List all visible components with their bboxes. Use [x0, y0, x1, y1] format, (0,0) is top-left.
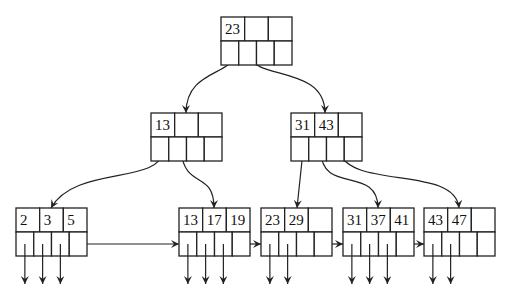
pointer-cell — [274, 41, 292, 65]
pointer-cell — [69, 232, 87, 256]
key-cell — [245, 17, 269, 41]
key-cell — [471, 208, 495, 232]
pointer-cell — [232, 232, 250, 256]
tree-node-leaf-5: 4347 — [424, 208, 495, 256]
pointer-cell — [151, 137, 169, 161]
key-cell — [308, 208, 332, 232]
bplus-tree-diagram: 2313314323513171923293137414347 — [0, 0, 511, 297]
pointer-cell — [309, 137, 327, 161]
pointer-cell — [169, 137, 187, 161]
tree-nodes: 2313314323513171923293137414347 — [16, 17, 495, 256]
pointer-cell — [221, 41, 239, 65]
child-pointer-arrow-icon — [51, 151, 163, 208]
pointer-cell — [327, 137, 345, 161]
tree-node-leaf-4: 313741 — [343, 208, 414, 256]
pointer-cell — [204, 137, 222, 161]
pointer-cell — [396, 232, 414, 256]
pointer-cell — [239, 41, 257, 65]
key-label: 23 — [225, 21, 240, 37]
pointer-cell — [460, 232, 478, 256]
key-label: 41 — [394, 212, 409, 228]
key-cell — [175, 113, 199, 137]
pointer-cell — [314, 232, 332, 256]
tree-node-root: 23 — [221, 17, 292, 65]
key-label: 23 — [265, 212, 280, 228]
tree-node-internal-right: 3143 — [291, 113, 362, 161]
key-label: 43 — [428, 212, 443, 228]
key-label: 5 — [67, 212, 75, 228]
tree-node-leaf-2: 131719 — [179, 208, 250, 256]
key-label: 31 — [295, 117, 310, 133]
key-cell — [338, 113, 362, 137]
key-label: 13 — [155, 117, 170, 133]
key-label: 47 — [452, 212, 468, 228]
pointer-cell — [477, 232, 495, 256]
key-label: 31 — [347, 212, 362, 228]
pointer-cell — [257, 41, 275, 65]
tree-node-leaf-3: 2329 — [261, 208, 332, 256]
tree-edges — [51, 55, 459, 208]
key-label: 13 — [183, 212, 198, 228]
pointer-cell — [187, 137, 205, 161]
key-label: 29 — [289, 212, 304, 228]
key-label: 37 — [371, 212, 387, 228]
tree-node-internal-left: 13 — [151, 113, 222, 161]
pointer-cell — [291, 137, 309, 161]
key-label: 19 — [230, 212, 245, 228]
pointer-cell — [297, 232, 315, 256]
tree-node-leaf-1: 235 — [16, 208, 87, 256]
key-label: 43 — [319, 117, 334, 133]
pointer-cell — [344, 137, 362, 161]
key-cell — [268, 17, 292, 41]
key-label: 2 — [20, 212, 28, 228]
key-label: 17 — [207, 212, 223, 228]
key-cell — [198, 113, 222, 137]
key-label: 3 — [44, 212, 52, 228]
